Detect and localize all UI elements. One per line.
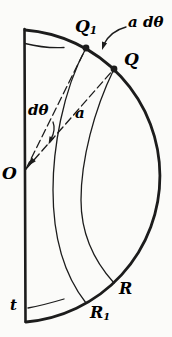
label-q: Q [124,50,139,69]
vertical-chord-line [25,29,26,322]
label-r: R [119,280,132,298]
label-q1: Q1 [75,17,97,36]
label-d-theta: dθ [28,102,49,119]
inner-arc-bottom-fragment [28,299,64,308]
point-q1-dot [83,45,90,52]
label-r1: R1 [90,304,110,323]
inner-arc-top-fragment [25,44,64,48]
arc-element-arrowhead [102,42,107,50]
outer-arc [25,30,160,322]
label-thickness-t: t [10,297,17,314]
label-radius-a: a [75,105,85,122]
label-arc-element: a dθ [128,14,163,31]
label-center-o: O [2,164,17,183]
diagram-canvas [0,0,172,337]
curve-q1-r1 [53,48,86,303]
d-theta-leader-line [51,122,54,139]
point-q-dot [111,66,118,73]
geometry-diagram: Q1 a dθ Q dθ a O t R R1 [0,0,172,337]
arc-element-leader-line [104,27,126,44]
